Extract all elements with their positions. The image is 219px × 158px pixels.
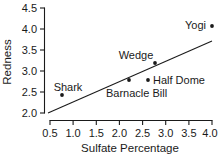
data-point-yogi[interactable] bbox=[210, 24, 214, 28]
scatter-plot-figure: 2.0 2.5 3.0 3.5 4.0 4.5 Redness 0.5 1.0 … bbox=[0, 0, 219, 158]
data-label-barnacle-bill: Barnacle Bill bbox=[106, 87, 167, 99]
y-axis-ticks bbox=[40, 8, 45, 113]
y-tick-label-4-0: 4.0 bbox=[22, 23, 37, 35]
data-label-half-dome: Half Dome bbox=[153, 74, 205, 86]
data-point-shark[interactable] bbox=[60, 93, 64, 97]
x-axis-title: Sulfate Percentage bbox=[81, 142, 179, 154]
x-tick-label-1-0: 1.0 bbox=[65, 127, 80, 139]
x-tick-label-4-0: 4.0 bbox=[202, 127, 217, 139]
x-tick-label-1-5: 1.5 bbox=[89, 127, 104, 139]
y-tick-label-2-0: 2.0 bbox=[22, 107, 37, 119]
data-point-wedge[interactable] bbox=[153, 61, 157, 65]
plot-canvas: 2.0 2.5 3.0 3.5 4.0 4.5 Redness 0.5 1.0 … bbox=[0, 0, 219, 158]
data-point-half-dome[interactable] bbox=[146, 78, 150, 82]
y-tick-label-3-5: 3.5 bbox=[22, 44, 37, 56]
y-axis-title: Redness bbox=[1, 39, 13, 85]
data-label-wedge: Wedge bbox=[119, 49, 154, 61]
y-tick-label-3-0: 3.0 bbox=[22, 65, 37, 77]
x-tick-label-2-5: 2.5 bbox=[135, 127, 150, 139]
data-label-yogi: Yogi bbox=[185, 19, 206, 31]
data-point-barnacle-bill[interactable] bbox=[127, 78, 131, 82]
x-tick-label-3-0: 3.0 bbox=[158, 127, 173, 139]
y-tick-label-2-5: 2.5 bbox=[22, 86, 37, 98]
data-label-shark: Shark bbox=[54, 81, 83, 93]
x-tick-label-3-5: 3.5 bbox=[181, 127, 196, 139]
x-tick-label-2-0: 2.0 bbox=[112, 127, 127, 139]
x-tick-label-0-5: 0.5 bbox=[42, 127, 57, 139]
y-tick-label-4-5: 4.5 bbox=[22, 2, 37, 14]
x-axis-ticks bbox=[50, 121, 212, 126]
